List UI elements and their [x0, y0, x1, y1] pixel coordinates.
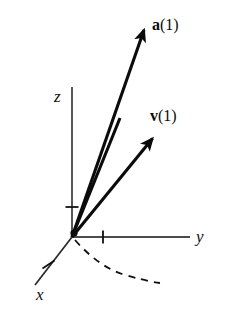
y-axis-label: y [196, 228, 204, 245]
velocity-argument: (1) [158, 107, 177, 124]
vector-diagram-figure: z y x a(1) v(1) [0, 0, 226, 321]
vectors-group [70, 30, 152, 237]
velocity-symbol: v [150, 107, 158, 124]
acceleration-vector [72, 30, 144, 237]
acceleration-symbol: a [152, 16, 160, 33]
z-axis-label: z [54, 88, 61, 105]
acceleration-argument: (1) [160, 16, 179, 33]
space-curve-group [75, 240, 160, 283]
figure-canvas [0, 0, 226, 321]
tangent-segment [72, 118, 120, 237]
acceleration-vector-label: a(1) [152, 17, 179, 33]
velocity-vector-label: v(1) [150, 108, 177, 124]
space-curve [75, 240, 160, 283]
x-axis-label: x [36, 286, 44, 303]
origin-point [70, 229, 77, 236]
velocity-vector [72, 139, 153, 238]
